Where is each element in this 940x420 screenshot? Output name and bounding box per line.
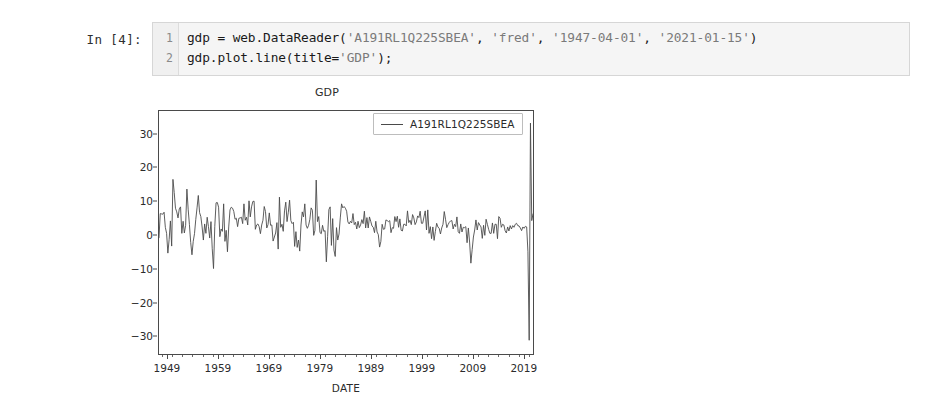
- plot-area: [158, 110, 534, 355]
- x-axis-minor-tick: [192, 355, 193, 357]
- x-axis-minor-tick: [509, 355, 510, 357]
- x-axis-minor-tick: [447, 355, 448, 357]
- code-lines[interactable]: gdp = web.DataReader('A191RL1Q225SBEA', …: [179, 23, 909, 75]
- y-axis-tick-mark: [153, 167, 157, 168]
- code-token: ,: [537, 30, 552, 45]
- code-line-2: gdp.plot.line(title='GDP');: [187, 48, 909, 68]
- x-axis-tick-label: 2019: [501, 362, 547, 374]
- cell-prompt-label: In [4]:: [26, 32, 142, 47]
- chart-output-figure: GDP 3020100−10−20−30 1949195919691979198…: [120, 86, 560, 406]
- x-axis-minor-tick: [356, 355, 357, 357]
- x-axis-tick-mark: [167, 355, 168, 359]
- x-axis-minor-tick: [203, 355, 204, 357]
- x-axis-minor-tick: [254, 355, 255, 357]
- x-axis-minor-tick: [478, 355, 479, 357]
- x-axis-tick-label: 1999: [399, 362, 445, 374]
- code-line-1: gdp = web.DataReader('A191RL1Q225SBEA', …: [187, 28, 909, 48]
- code-string-token: '2021-01-15': [659, 30, 750, 45]
- x-axis-tick-mark: [269, 355, 270, 359]
- code-editor-area[interactable]: 1 2 gdp = web.DataReader('A191RL1Q225SBE…: [152, 22, 910, 76]
- x-axis-label: DATE: [158, 382, 534, 394]
- x-axis-minor-tick: [376, 355, 377, 357]
- x-axis-minor-tick: [335, 355, 336, 357]
- y-axis-tick-mark: [153, 336, 157, 337]
- x-axis-minor-tick: [488, 355, 489, 357]
- x-axis-minor-tick: [427, 355, 428, 357]
- y-axis-tick-mark: [153, 268, 157, 269]
- code-token: gdp.plot.line(title=: [187, 50, 339, 65]
- y-axis-tick-mark: [153, 302, 157, 303]
- line-number: 2: [153, 48, 178, 68]
- legend-entry-label: A191RL1Q225SBEA: [410, 118, 515, 130]
- x-axis-minor-tick: [458, 355, 459, 357]
- x-axis-tick-label: 1949: [144, 362, 190, 374]
- x-axis-minor-tick: [345, 355, 346, 357]
- series-line-svg: [159, 111, 533, 354]
- x-axis-minor-tick: [274, 355, 275, 357]
- x-axis-minor-tick: [284, 355, 285, 357]
- code-token: gdp = web.DataReader(: [187, 30, 347, 45]
- notebook-input-cell[interactable]: In [4]: 1 2 gdp = web.DataReader('A191RL…: [0, 22, 940, 78]
- x-axis-minor-tick: [264, 355, 265, 357]
- x-axis-minor-tick: [396, 355, 397, 357]
- y-axis-tick-mark: [153, 235, 157, 236]
- x-axis-minor-tick: [325, 355, 326, 357]
- legend-line-swatch: [381, 124, 403, 125]
- x-axis-minor-tick: [233, 355, 234, 357]
- line-number: 1: [153, 28, 178, 48]
- x-axis-minor-tick: [315, 355, 316, 357]
- code-token: ,: [643, 30, 658, 45]
- x-axis-tick-label: 1979: [297, 362, 343, 374]
- x-axis-minor-tick: [407, 355, 408, 357]
- x-axis-tick-mark: [320, 355, 321, 359]
- x-axis-minor-tick: [386, 355, 387, 357]
- code-token: );: [377, 50, 392, 65]
- code-string-token: '1947-04-01': [552, 30, 643, 45]
- x-axis-tick-mark: [524, 355, 525, 359]
- y-axis-tick-mark: [153, 133, 157, 134]
- x-axis-tick-mark: [473, 355, 474, 359]
- x-axis-tick-mark: [218, 355, 219, 359]
- x-axis-minor-tick: [162, 355, 163, 357]
- x-axis-tick-mark: [371, 355, 372, 359]
- x-axis-tick-label: 1969: [246, 362, 292, 374]
- code-string-token: 'A191RL1Q225SBEA': [347, 30, 476, 45]
- x-axis-minor-tick: [437, 355, 438, 357]
- x-axis-minor-tick: [417, 355, 418, 357]
- code-token: ): [750, 30, 758, 45]
- x-axis-minor-tick: [498, 355, 499, 357]
- x-axis-minor-tick: [366, 355, 367, 357]
- x-axis-tick-label: 1989: [348, 362, 394, 374]
- x-axis-tick-label: 1959: [195, 362, 241, 374]
- chart-legend: A191RL1Q225SBEA: [373, 113, 523, 135]
- x-axis-minor-tick: [305, 355, 306, 357]
- x-axis-minor-tick: [182, 355, 183, 357]
- x-axis-minor-tick: [519, 355, 520, 357]
- x-axis-minor-tick: [213, 355, 214, 357]
- x-axis-tick-mark: [422, 355, 423, 359]
- x-axis-minor-tick: [223, 355, 224, 357]
- x-axis-tick-label: 2009: [450, 362, 496, 374]
- chart-title: GDP: [120, 86, 534, 99]
- y-axis-tick-mark: [153, 201, 157, 202]
- x-axis-minor-tick: [172, 355, 173, 357]
- x-axis-minor-tick: [294, 355, 295, 357]
- code-string-token: 'GDP': [339, 50, 377, 65]
- x-axis-minor-tick: [243, 355, 244, 357]
- line-number-gutter: 1 2: [153, 23, 179, 75]
- x-axis-minor-tick: [529, 355, 530, 357]
- code-string-token: 'fred': [491, 30, 537, 45]
- y-axis-tick-marks: [120, 110, 160, 355]
- code-token: ,: [476, 30, 491, 45]
- series-polyline: [159, 123, 533, 340]
- x-axis-minor-tick: [468, 355, 469, 357]
